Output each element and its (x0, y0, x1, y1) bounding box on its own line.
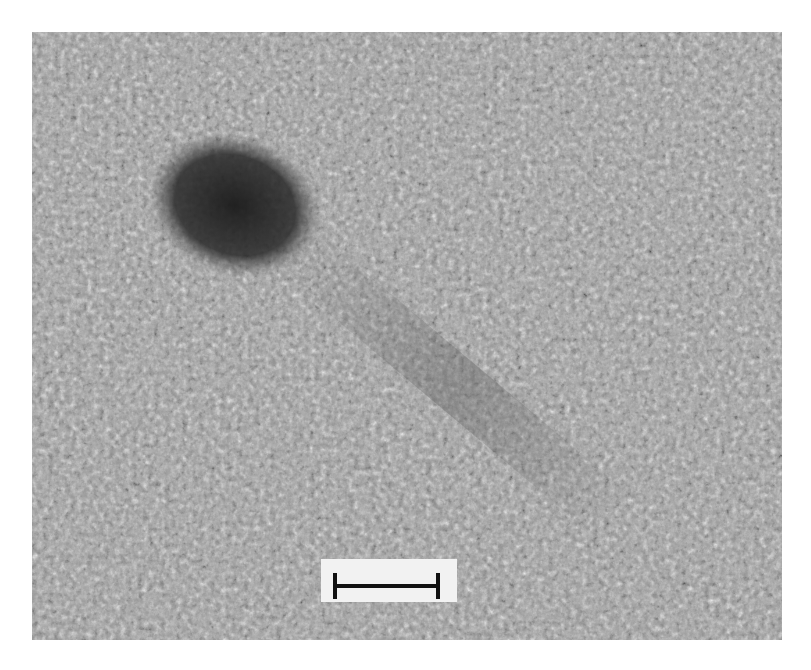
micrograph-texture (32, 32, 782, 640)
scale-bar-line (333, 584, 440, 588)
scale-bar-right-tick (436, 573, 440, 599)
micrograph-image (32, 32, 782, 640)
scale-bar (321, 559, 457, 602)
